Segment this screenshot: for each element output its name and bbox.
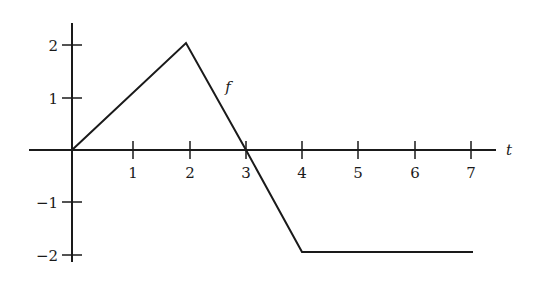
- x-tick-label-1: 1: [128, 164, 138, 182]
- x-tick-label-7: 7: [466, 164, 476, 182]
- chart: 1 2 3 4 5 6 7 2 1 −1 −2 t f: [0, 0, 539, 284]
- y-tick-label-1: 1: [48, 90, 58, 108]
- x-tick-label-2: 2: [185, 164, 195, 182]
- y-tick-label-2: 2: [48, 37, 58, 55]
- x-tick-label-4: 4: [297, 164, 307, 182]
- y-tick-label-neg1: −1: [36, 194, 58, 212]
- x-tick-label-5: 5: [353, 164, 363, 182]
- y-tick-label-neg2: −2: [36, 247, 58, 265]
- x-axis-label: t: [506, 141, 513, 159]
- x-tick-label-6: 6: [410, 164, 420, 182]
- curve-f: [72, 43, 473, 252]
- curve-f-label: f: [224, 78, 233, 96]
- x-tick-label-3: 3: [241, 164, 251, 182]
